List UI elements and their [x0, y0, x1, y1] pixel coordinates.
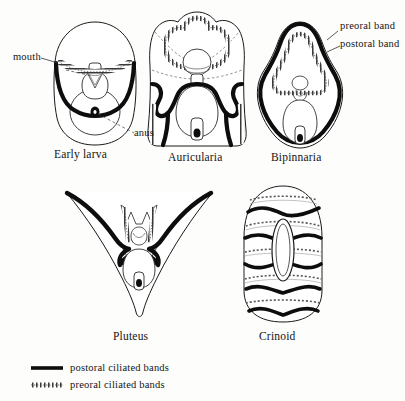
larval-forms-diagram: [0, 0, 405, 401]
legend-label-postoral: postoral ciliated bands: [70, 362, 169, 373]
legend-label-preoral: preoral ciliated bands: [70, 379, 165, 390]
auricularia-preoral-lobe-right: [240, 104, 242, 144]
caption-auricularia: Auricularia: [168, 151, 223, 163]
early-larva-anus-lumen: [93, 110, 96, 114]
label-postoral-band: postoral band: [340, 38, 399, 49]
pluteus-anus: [136, 279, 142, 287]
panel-auricularia: [148, 12, 246, 146]
crinoid-vestibule-inner: [276, 224, 290, 276]
caption-early-larva: Early larva: [54, 148, 107, 160]
label-preoral-band: preoral band: [340, 20, 395, 31]
label-anus: anus: [134, 127, 154, 138]
panel-crinoid: [244, 186, 322, 322]
caption-crinoid: Crinoid: [259, 330, 296, 342]
pluteus-mouth: [131, 227, 147, 245]
auricularia-anus: [194, 129, 201, 138]
auricularia-preoral-lobe-left: [152, 104, 154, 144]
caption-bipinnaria: Bipinnaria: [271, 151, 322, 163]
caption-pluteus: Pluteus: [113, 330, 148, 342]
bipinnaria-anus: [297, 134, 303, 142]
bipinnaria-mouth: [292, 76, 308, 90]
label-mouth: mouth: [13, 51, 41, 62]
